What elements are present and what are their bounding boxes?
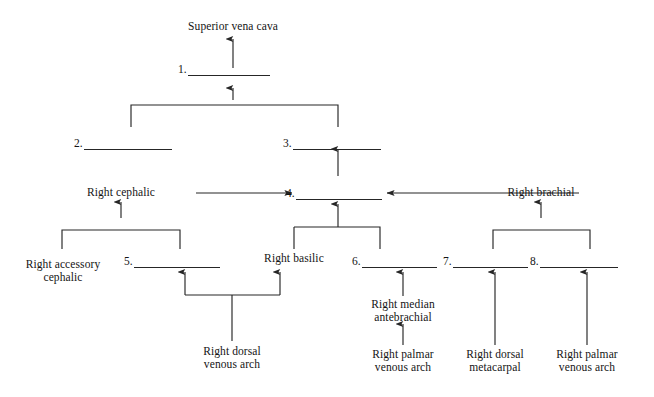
bracket-accessory-and-blank5 [62, 230, 180, 249]
blank-rule-5[interactable] [134, 256, 220, 268]
node-right-dorsal-venous-arch: Right dorsal venous arch [177, 345, 287, 371]
blank-rule-7[interactable] [453, 256, 528, 268]
bracket-blank2-blank3 [131, 105, 338, 127]
bracket-blank7-blank8 [493, 230, 590, 249]
blank-number-6: 6. [352, 255, 361, 268]
blank-rule-4[interactable] [296, 188, 382, 200]
node-right-palmar-venous-arch-right: Right palmar venous arch [532, 348, 642, 374]
blank-rule-8[interactable] [540, 256, 618, 268]
answer-blank-8[interactable]: 8. [530, 255, 618, 268]
node-right-median-antebrachial: Right median antebrachial [348, 298, 458, 324]
blank-number-4: 4. [286, 187, 295, 200]
blank-number-5: 5. [124, 255, 133, 268]
blank-number-1: 1. [178, 63, 187, 76]
blank-rule-2[interactable] [84, 138, 172, 150]
blank-number-7: 7. [443, 255, 452, 268]
blank-number-2: 2. [74, 137, 83, 150]
node-right-basilic: Right basilic [234, 252, 354, 265]
blank-number-3: 3. [283, 137, 292, 150]
node-right-accessory-cephalic: Right accessory cephalic [10, 258, 116, 284]
node-right-brachial: Right brachial [481, 186, 601, 199]
blank-rule-6[interactable] [362, 256, 437, 268]
answer-blank-1[interactable]: 1. [178, 63, 270, 76]
answer-blank-7[interactable]: 7. [443, 255, 528, 268]
answer-blank-4[interactable]: 4. [286, 187, 382, 200]
venous-flowchart-diagram: Superior vena cava Right cephalic Right … [0, 0, 654, 397]
bracket-basilic-blank6 [294, 227, 380, 249]
answer-blank-2[interactable]: 2. [74, 137, 172, 150]
blank-rule-3[interactable] [293, 138, 381, 150]
node-superior-vena-cava: Superior vena cava [155, 20, 311, 33]
answer-blank-5[interactable]: 5. [124, 255, 220, 268]
blank-rule-1[interactable] [188, 64, 270, 76]
blank-number-8: 8. [530, 255, 539, 268]
answer-blank-3[interactable]: 3. [283, 137, 381, 150]
answer-blank-6[interactable]: 6. [352, 255, 437, 268]
node-right-cephalic: Right cephalic [61, 186, 181, 199]
